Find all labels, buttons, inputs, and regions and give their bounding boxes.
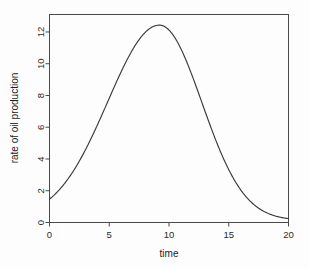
y-tick-label: 2 [35, 188, 46, 193]
x-tick-label: 15 [223, 229, 234, 240]
y-tick-label: 4 [35, 156, 46, 161]
y-axis-title: rate of oil production [9, 73, 20, 164]
x-tick-label: 20 [283, 229, 294, 240]
x-tick-label: 5 [107, 229, 112, 240]
y-tick-label: 0 [35, 220, 46, 225]
y-tick-label: 6 [35, 125, 46, 130]
x-tick-label: 0 [47, 229, 52, 240]
x-tick-label: 10 [164, 229, 175, 240]
y-tick-label: 10 [35, 58, 46, 69]
chart-figure: 024681012 05101520 time rate of oil prod… [0, 0, 309, 268]
y-tick-label: 12 [35, 27, 46, 38]
x-axis-title: time [160, 248, 179, 259]
y-tick-label: 8 [35, 93, 46, 98]
oil-production-line-chart: 024681012 05101520 time rate of oil prod… [0, 0, 309, 268]
